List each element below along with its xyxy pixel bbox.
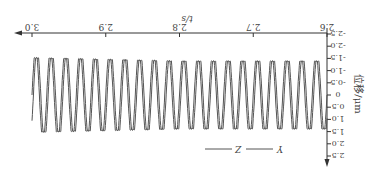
y-tick-label: -1.0 — [330, 66, 345, 75]
legend: Y Z — [205, 144, 283, 154]
y-tick-label: 1.5 — [332, 127, 345, 136]
x-axis-arrow-icon — [14, 31, 22, 36]
y-tick-label: 1.0 — [332, 114, 345, 123]
y-axis-label: 位移/μm — [353, 74, 365, 114]
y-axis-arrow-icon — [325, 159, 330, 167]
x-tick-label: 3.0 — [25, 22, 40, 32]
y-tick-label: 0 — [335, 90, 340, 99]
y-tick-label: -2.5 — [330, 29, 345, 38]
x-ticks: 2.62.72.82.93.0 — [25, 22, 335, 37]
vibration-chart: 2.62.72.82.93.0 -2.5-2.0-1.5-1.0-0.500.5… — [0, 0, 374, 183]
legend-label-y: Y — [276, 144, 283, 154]
y-tick-label: -1.5 — [330, 53, 345, 62]
y-tick-label: 2.5 — [332, 151, 345, 160]
x-axis-label: t/s — [181, 14, 193, 24]
series-lines — [32, 58, 327, 133]
y-ticks: -2.5-2.0-1.5-1.0-0.500.51.01.52.02.5 — [327, 29, 346, 160]
y-tick-label: -2.0 — [330, 41, 345, 50]
y-tick-label: -0.5 — [330, 78, 345, 87]
y-tick-label: 2.0 — [332, 139, 345, 148]
x-tick-label: 2.7 — [246, 22, 261, 32]
chart-svg: 2.62.72.82.93.0 -2.5-2.0-1.5-1.0-0.500.5… — [0, 0, 374, 183]
x-tick-label: 2.9 — [98, 22, 113, 32]
legend-label-z: Z — [234, 144, 242, 154]
y-tick-label: 0.5 — [332, 102, 345, 111]
